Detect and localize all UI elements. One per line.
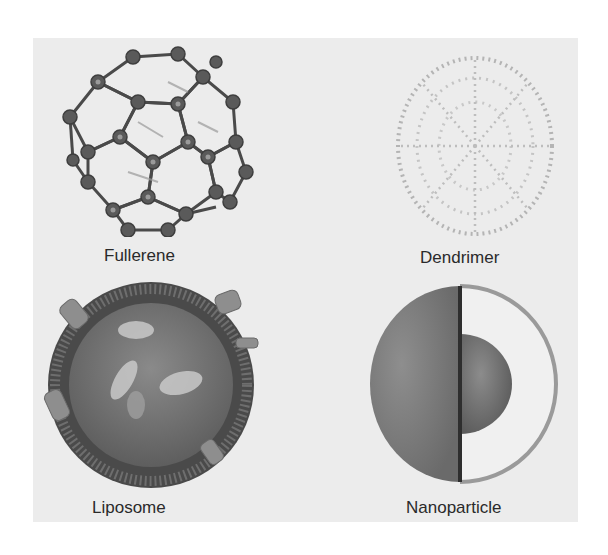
liposome-label: Liposome (92, 498, 166, 518)
nanoparticle-label: Nanoparticle (406, 498, 501, 518)
fullerene-label: Fullerene (104, 246, 175, 266)
dendrimer-label: Dendrimer (420, 248, 499, 268)
nanoparticle-icon (370, 282, 570, 486)
dendrimer-icon (394, 55, 556, 237)
fullerene-icon (58, 42, 258, 237)
liposome-icon (36, 280, 268, 490)
